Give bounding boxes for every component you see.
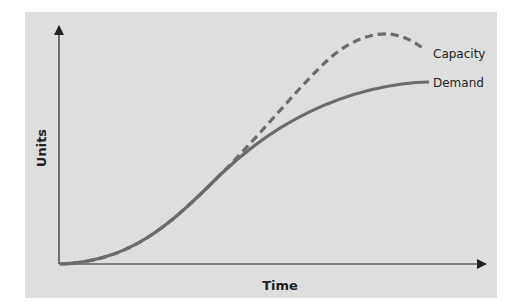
capacity-line	[60, 34, 425, 264]
chart-svg: Capacity Demand Time Units	[0, 0, 517, 308]
demand-line	[60, 82, 429, 264]
capacity-label: Capacity	[433, 47, 485, 61]
y-axis-label: Units	[34, 129, 49, 167]
x-axis-label: Time	[262, 278, 298, 293]
demand-label: Demand	[433, 76, 484, 90]
